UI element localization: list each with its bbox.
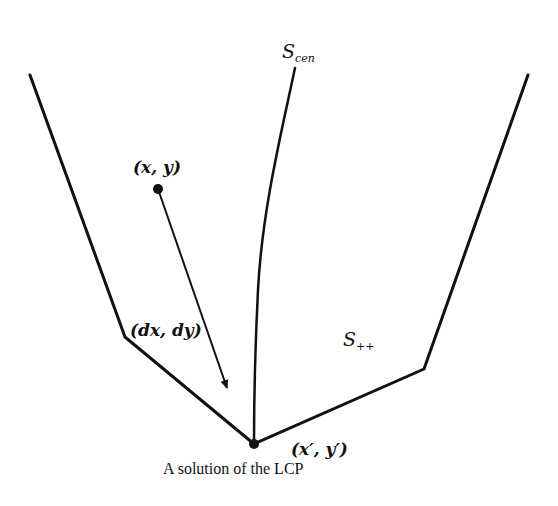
right-boundary-line xyxy=(254,75,528,444)
feasible-region-label-base: S xyxy=(343,328,356,350)
solution-point-label: (x′, y′) xyxy=(291,441,348,458)
lcp-diagram: Scen S++ (x, y) (dx, dy) (x′, y′) A solu… xyxy=(0,0,558,506)
central-path-curve xyxy=(254,68,295,444)
solution-point-dot xyxy=(249,439,259,449)
start-point-dot xyxy=(153,184,163,194)
direction-label: (dx, dy) xyxy=(130,322,202,339)
solution-caption: A solution of the LCP xyxy=(163,461,303,477)
central-path-label-base: S xyxy=(282,40,295,62)
central-path-label-sub: cen xyxy=(295,52,315,65)
direction-arrow xyxy=(158,189,227,388)
left-boundary-line xyxy=(30,75,254,444)
central-path-label: Scen xyxy=(282,42,315,64)
feasible-region-label-sub: ++ xyxy=(356,340,374,353)
start-point-label: (x, y) xyxy=(133,159,181,176)
diagram-canvas xyxy=(0,0,558,506)
feasible-region-label: S++ xyxy=(343,330,374,352)
